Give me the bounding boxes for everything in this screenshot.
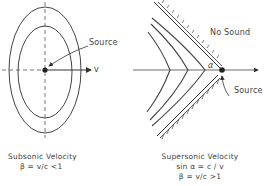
mach-angle-label: α	[208, 61, 213, 70]
supersonic-caption-formula-1: sin α = c / v	[148, 162, 252, 172]
supersonic-caption-title: Supersonic Velocity	[148, 152, 252, 162]
subsonic-caption-formula: β = v/c <1	[20, 162, 62, 172]
supersonic-diagram	[133, 0, 258, 139]
source-pointer-arrow	[222, 76, 229, 96]
supersonic-caption-formula-2: β = v/c >1	[148, 172, 252, 182]
supersonic-source-label: Source	[234, 86, 263, 95]
subsonic-caption-title: Subsonic Velocity	[8, 152, 112, 162]
subsonic-source-label: Source	[89, 38, 118, 47]
source-dot	[42, 67, 47, 72]
mach-line-lower	[157, 75, 218, 136]
subsonic-diagram	[2, 2, 91, 138]
wavefront-arc-inner	[147, 32, 170, 112]
source-dot	[219, 67, 225, 73]
no-sound-label: No Sound	[210, 28, 250, 37]
subsonic-velocity-label: v	[94, 65, 99, 74]
